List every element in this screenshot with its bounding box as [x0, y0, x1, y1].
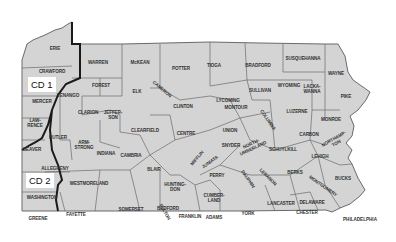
county-label-tioga: TIOGA [207, 63, 221, 68]
county-label-allegheny: ALLEGHENY [41, 166, 68, 171]
county-label-fayette: FAYETTE [66, 212, 86, 217]
county-label-clarion: CLARION [78, 110, 98, 115]
county-label-bradford: BRADFORD [245, 63, 270, 68]
county-label-indiana: INDIANA [97, 151, 115, 156]
county-label-perry: PERRY [209, 173, 224, 178]
county-label-delaware: DELAWARE [299, 200, 324, 205]
county-label-centre: CENTRE [177, 131, 195, 136]
district-label-cd1: CD 1 [28, 77, 56, 92]
county-label-forest: FOREST [92, 83, 110, 88]
county-label-york: YORK [242, 211, 255, 216]
county-label-luzerne: LUZERNE [287, 109, 308, 114]
county-label-clearfield: CLEARFIELD [131, 128, 159, 133]
county-label-erie: ERIE [50, 46, 60, 51]
county-label-adams: ADAMS [206, 215, 222, 220]
county-label-elk: ELK [133, 89, 142, 94]
county-label-lancaster: LANCASTER [267, 201, 294, 206]
county-label-westmoreland: WESTMORELAND [70, 181, 109, 186]
county-label-lehigh: LEHIGH [312, 154, 329, 159]
county-label-huntingdon: HUNTING- DON [164, 182, 186, 192]
county-label-butler: BUTLER [49, 135, 67, 140]
county-label-beaver: BEAVER [23, 147, 41, 152]
county-label-carbon: CARBON [299, 132, 319, 137]
county-label-lackawanna: LACKA- WANNA [303, 84, 320, 94]
pennsylvania-map: ERIE CRAWFORD MERCER LAW- RENCE BEAVER B… [0, 0, 396, 242]
county-label-monroe: MONROE [321, 117, 341, 122]
county-label-lycoming: LYCOMING [216, 98, 240, 103]
county-label-clinton: CLINTON [173, 104, 193, 109]
county-label-potter: POTTER [172, 66, 190, 71]
county-label-wayne: WAYNE [328, 71, 344, 76]
county-label-armstrong: ARM- STRONG [74, 140, 93, 150]
county-label-susquehanna: SUSQUEHANNA [286, 56, 321, 61]
county-label-montour: MONTOUR [225, 105, 248, 110]
county-label-mckean: McKEAN [131, 60, 150, 65]
county-label-pike: PIKE [341, 94, 351, 99]
county-label-cumberland: CUMBER- LAND [204, 193, 225, 203]
county-label-warren: WARREN [88, 60, 108, 65]
county-label-schuylkill: SCHUYLKILL [269, 147, 297, 152]
county-label-union: UNION [223, 128, 237, 133]
county-label-berks: BERKS [287, 170, 303, 175]
county-label-chester: CHESTER [296, 210, 317, 215]
county-label-crawford: CRAWFORD [39, 69, 65, 74]
county-label-cambria: CAMBRIA [121, 153, 142, 158]
county-label-bucks: BUCKS [335, 176, 351, 181]
county-label-sullivan: SULLIVAN [249, 88, 271, 93]
county-label-greene: GREENE [29, 216, 48, 221]
county-label-mercer: MERCER [32, 99, 51, 104]
district-label-cd2: CD 2 [26, 173, 54, 188]
county-label-franklin: FRANKLIN [179, 214, 202, 219]
county-label-venango: VENANGO [57, 93, 80, 98]
county-label-wyoming: WYOMING [278, 83, 300, 88]
county-label-washington: WASHINGTON [27, 195, 58, 200]
county-label-blair: BLAIR [147, 167, 161, 172]
county-label-lawrence: LAW- RENCE [27, 118, 43, 128]
county-label-jefferson: JEFFER- SON [104, 110, 122, 120]
county-label-somerset: SOMERSET [119, 207, 144, 212]
city-label-philadelphia: PHILADELPHIA [343, 217, 377, 222]
